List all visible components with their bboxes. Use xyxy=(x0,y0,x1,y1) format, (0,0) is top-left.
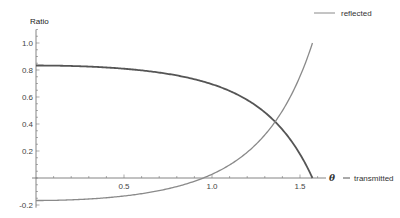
y-tick-label: 0.2 xyxy=(22,147,34,156)
y-tick-label: 1.0 xyxy=(22,39,34,48)
reflected-label: reflected xyxy=(341,9,372,18)
x-tick-label: 0.5 xyxy=(118,182,130,191)
x-tick-label: 1.0 xyxy=(206,182,218,191)
x-axis-label: θ xyxy=(329,173,335,183)
y-tick-label: 0.8 xyxy=(22,66,34,75)
y-tick-label: 0.6 xyxy=(22,93,34,102)
transmitted-curve xyxy=(36,66,312,179)
transmitted-label: transmitted xyxy=(354,174,394,183)
curves xyxy=(36,43,312,201)
fresnel-chart: -0.20.20.40.60.81.00.51.01.5 Ratio θ ref… xyxy=(0,0,400,218)
axes xyxy=(32,30,326,208)
y-tick-label: -0.2 xyxy=(19,201,33,210)
y-axis-label: Ratio xyxy=(30,17,49,26)
y-tick-label: 0.4 xyxy=(22,120,34,129)
x-tick-label: 1.5 xyxy=(294,182,306,191)
